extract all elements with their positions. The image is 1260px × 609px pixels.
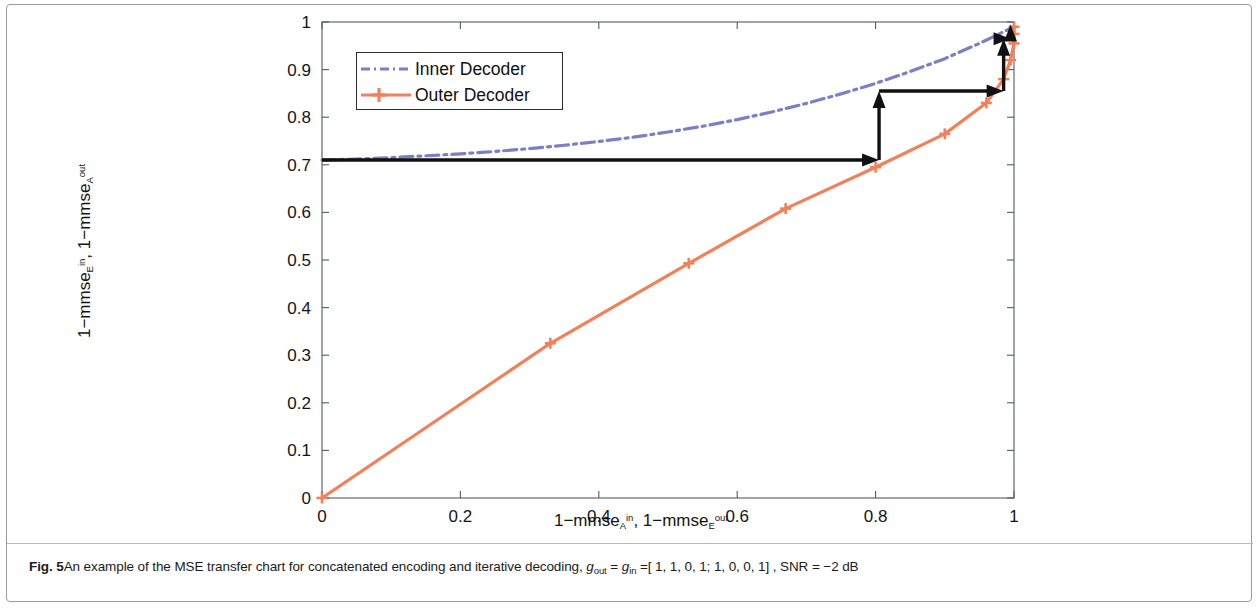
svg-text:0.2: 0.2 — [287, 394, 311, 413]
y-axis-title-part1: 1−mmse — [75, 272, 94, 338]
trajectory-arrow-2 — [879, 85, 1004, 98]
caption-g-out-sub: out — [594, 565, 607, 576]
y-axis-title-sep: , 1−mmse — [75, 184, 94, 259]
figure-frame: 00.20.40.60.8100.10.20.30.40.50.60.70.80… — [6, 4, 1252, 602]
x-axis-title-sep: , 1−mmse — [633, 511, 708, 530]
exit-chart-svg: 00.20.40.60.8100.10.20.30.40.50.60.70.80… — [7, 5, 1253, 545]
svg-text:0.9: 0.9 — [287, 61, 311, 80]
x-axis-title: 1−mmseAin, 1−mmseEout — [7, 511, 1253, 531]
svg-text:0.7: 0.7 — [287, 156, 311, 175]
x-axis-title-part1: 1−mmse — [554, 511, 620, 530]
legend-label-inner-decoder: Inner Decoder — [415, 59, 526, 80]
trajectory-arrow-1 — [873, 91, 886, 160]
legend-label-outer-decoder: Outer Decoder — [415, 85, 530, 106]
caption-text-part1: An example of the MSE transfer chart for… — [64, 559, 587, 574]
svg-text:0.6: 0.6 — [287, 203, 311, 222]
y-axis-title-sup2: out — [76, 164, 87, 177]
caption-eq2: =[ 1, 1, 0, 1; 1, 0, 0, 1] , SNR = −2 dB — [636, 559, 858, 574]
x-axis-title-sup2: out — [715, 512, 728, 523]
chart-legend: Inner Decoder Outer Decoder — [356, 52, 563, 110]
svg-text:0.4: 0.4 — [287, 299, 311, 318]
y-axis-title-sub1: E — [84, 266, 95, 272]
svg-text:0: 0 — [302, 489, 311, 508]
caption-g-out: g — [586, 559, 593, 574]
y-axis-title-sup1: in — [76, 259, 87, 266]
svg-text:0.5: 0.5 — [287, 251, 311, 270]
figure-caption: Fig. 5An example of the MSE transfer cha… — [7, 543, 1253, 577]
legend-item-outer-decoder: Outer Decoder — [357, 82, 562, 108]
figure-label: Fig. 5 — [29, 559, 64, 574]
y-axis-title: 1−mmseEin, 1−mmseAout — [75, 81, 95, 421]
legend-swatch-outer-decoder — [357, 84, 415, 106]
svg-text:0.1: 0.1 — [287, 441, 311, 460]
plot-area: 00.20.40.60.8100.10.20.30.40.50.60.70.80… — [7, 5, 1253, 545]
legend-swatch-inner-decoder — [357, 58, 415, 80]
legend-item-inner-decoder: Inner Decoder — [357, 56, 562, 82]
caption-eq1: = — [607, 559, 622, 574]
y-axis-title-sub2: A — [84, 177, 95, 183]
svg-text:1: 1 — [302, 13, 311, 32]
svg-text:0.3: 0.3 — [287, 346, 311, 365]
marker-plus — [870, 162, 881, 173]
svg-text:0.8: 0.8 — [287, 108, 311, 127]
